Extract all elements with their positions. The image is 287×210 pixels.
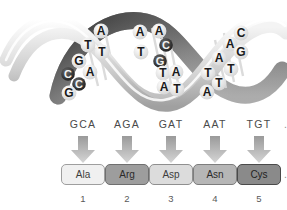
base-disc [234, 45, 249, 60]
arrow-icon [192, 134, 238, 166]
dna-base-t: T [95, 45, 110, 60]
amino-acid-box-ala[interactable]: Ala [61, 164, 105, 185]
translation-arrow-row [0, 134, 287, 166]
base-disc [133, 25, 148, 40]
dna-translation-figure: ATTGACCGAACTGTAATCAGATTTA GCAAGAGATAATTG… [0, 0, 287, 210]
base-disc [201, 66, 216, 81]
codon-label-2: AGA [104, 116, 150, 132]
dna-base-c: C [159, 38, 173, 52]
base-disc [94, 24, 109, 39]
dna-base-a: A [200, 85, 215, 100]
chain-trailing-ellipsis: ... [284, 164, 287, 185]
amino-acid-box-cys[interactable]: Cys [237, 164, 281, 185]
dna-base-a: A [83, 65, 98, 80]
dna-base-g: G [62, 86, 77, 101]
base-disc [224, 62, 239, 77]
base-disc [95, 45, 110, 60]
translation-arrow-1 [60, 134, 106, 166]
base-disc [159, 38, 173, 52]
residue-number-2: 2 [104, 192, 150, 206]
arrow-icon [104, 134, 150, 166]
dna-base-a: A [94, 24, 109, 39]
translation-arrow-4 [192, 134, 238, 166]
dna-base-t: T [212, 76, 227, 91]
dna-base-t: T [224, 62, 239, 77]
codon-trailing-ellipsis: ... [284, 116, 287, 132]
dna-base-c: C [61, 67, 75, 81]
codon-label-3: GAT [148, 116, 194, 132]
dna-base-c: C [234, 26, 249, 41]
dna-base-g: G [153, 54, 167, 68]
base-disc [62, 86, 77, 101]
base-disc [170, 82, 185, 97]
residue-number-row: 12345 [0, 192, 287, 206]
amino-acid-box-asp[interactable]: Asp [149, 164, 193, 185]
base-disc [234, 26, 249, 41]
residue-number-3: 3 [148, 192, 194, 206]
dna-helix-svg: ATTGACCGAACTGTAATCAGATTTA [0, 0, 287, 112]
dna-base-a: A [212, 51, 227, 66]
arrow-icon [236, 134, 282, 166]
base-disc [152, 24, 167, 39]
base-disc [83, 65, 98, 80]
residue-number-1: 1 [60, 192, 106, 206]
base-disc [157, 80, 172, 95]
codon-sequence-row: GCAAGAGATAATTGT... [0, 116, 287, 132]
dna-helix-illustration: ATTGACCGAACTGTAATCAGATTTA [0, 0, 287, 112]
translation-arrow-2 [104, 134, 150, 166]
dna-base-t: T [201, 66, 216, 81]
dna-base-a: A [152, 24, 167, 39]
base-disc [72, 54, 87, 69]
base-disc [81, 38, 96, 53]
translation-arrow-3 [148, 134, 194, 166]
dna-base-g: G [234, 45, 249, 60]
arrow-icon [148, 134, 194, 166]
translation-diagram: GCAAGAGATAATTGT... AlaArgAspAsnCys... 12… [0, 112, 287, 210]
codon-label-5: TGT [236, 116, 282, 132]
residue-number-4: 4 [192, 192, 238, 206]
amino-acid-box-asn[interactable]: Asn [193, 164, 237, 185]
base-disc [169, 65, 184, 80]
dna-base-g: G [72, 54, 87, 69]
dna-base-t: T [81, 38, 96, 53]
codon-label-1: GCA [60, 116, 106, 132]
dna-base-t: T [170, 82, 185, 97]
residue-number-5: 5 [236, 192, 282, 206]
translation-arrow-5 [236, 134, 282, 166]
dna-base-t: T [156, 66, 171, 81]
amino-acid-chain-row: AlaArgAspAsnCys... [0, 164, 287, 190]
base-disc [156, 66, 171, 81]
dna-base-a: A [169, 65, 184, 80]
base-disc [212, 76, 227, 91]
amino-acid-box-arg[interactable]: Arg [105, 164, 149, 185]
codon-label-4: AAT [192, 116, 238, 132]
base-disc [61, 67, 75, 81]
dna-base-a: A [157, 80, 172, 95]
dna-base-t: T [134, 45, 149, 60]
arrow-icon [60, 134, 106, 166]
dna-base-a: A [133, 25, 148, 40]
base-disc [134, 45, 149, 60]
base-disc [212, 51, 227, 66]
base-disc [200, 85, 215, 100]
base-disc [153, 54, 167, 68]
